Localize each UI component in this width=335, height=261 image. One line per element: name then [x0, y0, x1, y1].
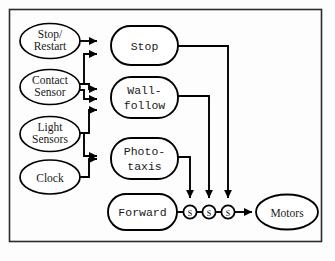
node-contact-sensor[interactable]: Contact Sensor	[20, 70, 80, 105]
suppressor-nodes: S S S	[183, 205, 234, 218]
node-suppressor-1-label: S	[188, 209, 192, 218]
node-stop-restart-label-2: Restart	[34, 40, 67, 52]
node-photo-taxis[interactable]: Photo- taxis	[111, 138, 178, 179]
node-suppressor-2[interactable]: S	[202, 205, 215, 218]
node-wall-follow-label-2: follow	[124, 99, 166, 112]
subsumption-diagram: Stop/ Restart Contact Sensor Light Senso…	[0, 0, 335, 261]
node-suppressor-1[interactable]: S	[183, 205, 196, 218]
node-photo-taxis-label-1: Photo-	[124, 145, 165, 158]
diagram-canvas: Stop/ Restart Contact Sensor Light Senso…	[0, 0, 335, 261]
node-motors[interactable]: Motors	[256, 195, 318, 230]
node-contact-sensor-label-1: Contact	[32, 74, 69, 86]
node-suppressor-3-label: S	[226, 209, 230, 218]
node-contact-sensor-label-2: Sensor	[34, 86, 65, 98]
node-wall-follow[interactable]: Wall- follow	[111, 77, 178, 118]
node-clock[interactable]: Clock	[20, 160, 80, 194]
node-forward-label: Forward	[118, 206, 166, 219]
node-suppressor-3[interactable]: S	[221, 205, 234, 218]
node-stop[interactable]: Stop	[111, 26, 178, 65]
node-suppressor-2-label: S	[207, 209, 211, 218]
node-wall-follow-label-1: Wall-	[127, 84, 162, 97]
node-light-sensors[interactable]: Light Sensors	[20, 117, 80, 152]
node-light-sensors-label-2: Sensors	[32, 133, 68, 145]
node-photo-taxis-label-2: taxis	[127, 160, 162, 173]
node-stop-label: Stop	[131, 40, 159, 53]
node-stop-restart[interactable]: Stop/ Restart	[20, 24, 80, 59]
node-motors-label: Motors	[270, 207, 304, 219]
node-forward[interactable]: Forward	[108, 194, 177, 230]
node-clock-label: Clock	[36, 172, 64, 184]
